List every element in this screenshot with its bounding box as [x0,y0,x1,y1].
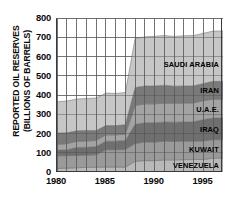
chart-figure: REPORTED OIL RESERVES (BILLIONS OF BARRE… [0,0,232,203]
y-tick-label: 700 [21,31,51,42]
x-tick-label: 1985 [85,175,125,186]
x-tick-label: 1995 [182,175,222,186]
series-label-venezuela: VENEZUELA [0,161,219,170]
series-label-iraq: IRAQ [0,125,219,134]
x-tick-label: 1980 [36,175,76,186]
series-label-kuwait: KUWAIT [0,145,219,154]
y-tick-label: 500 [21,70,51,81]
series-label-saudi-arabia: SAUDI ARABIA [0,60,219,69]
series-label-u-a-e: U.A.E. [0,105,219,114]
series-label-iran: IRAN [0,86,219,95]
x-tick-label: 1990 [134,175,174,186]
y-tick-label: 800 [21,12,51,23]
y-axis-tick-labels: 0100200300400500600700800 [19,0,51,203]
